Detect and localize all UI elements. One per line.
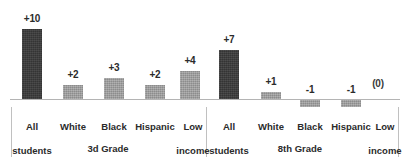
x-label-line1: White xyxy=(60,121,86,132)
x-label-3d-grade-white: White xyxy=(52,109,94,133)
bar-8th-grade-white xyxy=(261,92,281,99)
bar-value-3d-grade-hispanic: +2 xyxy=(135,69,175,80)
x-label-line1: Black xyxy=(101,121,126,132)
group-label-3d-grade: 3d Grade xyxy=(60,143,156,154)
x-label-line1: Hispanic xyxy=(135,121,175,132)
bar-3d-grade-all-students xyxy=(22,29,42,99)
bar-value-8th-grade-low-income: (0) xyxy=(358,78,398,89)
group-label-8th-grade: 8th Grade xyxy=(252,143,348,154)
plot-area: +10 +2 +3 +2 +4 +7 +1 -1 -1 (0) xyxy=(0,0,410,105)
bar-8th-grade-all-students xyxy=(219,50,239,99)
bar-value-3d-grade-low-income: +4 xyxy=(170,55,210,66)
category-label-band: All students White Black Hispanic Low in… xyxy=(0,105,410,163)
bar-value-3d-grade-black: +3 xyxy=(94,62,134,73)
bar-value-3d-grade-white: +2 xyxy=(53,69,93,80)
x-label-8th-grade-white: White xyxy=(250,109,292,133)
x-label-line2: students xyxy=(209,145,249,156)
x-label-8th-grade-black: Black xyxy=(290,109,330,133)
x-label-line1: Low xyxy=(376,121,395,132)
bar-value-8th-grade-white: +1 xyxy=(251,76,291,87)
bar-value-3d-grade-all-students: +10 xyxy=(12,13,52,24)
bar-value-8th-grade-all-students: +7 xyxy=(209,34,249,45)
grouped-bar-chart: +10 +2 +3 +2 +4 +7 +1 -1 -1 (0) All stud… xyxy=(0,0,410,163)
x-label-3d-grade-black: Black xyxy=(94,109,134,133)
x-label-line2: income xyxy=(368,145,401,156)
x-label-line1: All xyxy=(26,121,38,132)
x-label-3d-grade-all-students: All students xyxy=(8,109,56,157)
x-label-line1: Black xyxy=(297,121,322,132)
bar-3d-grade-low-income xyxy=(180,71,200,99)
x-label-line1: White xyxy=(258,121,284,132)
bar-3d-grade-white xyxy=(63,85,83,99)
x-label-8th-grade-low-income: Low income xyxy=(364,109,406,157)
x-label-line2: students xyxy=(12,145,52,156)
x-label-8th-grade-all-students: All students xyxy=(205,109,253,157)
x-label-line1: Low xyxy=(184,121,203,132)
x-label-line1: All xyxy=(223,121,235,132)
bar-value-8th-grade-black: -1 xyxy=(290,84,330,95)
bar-3d-grade-hispanic xyxy=(145,85,165,99)
bar-3d-grade-black xyxy=(104,78,124,99)
